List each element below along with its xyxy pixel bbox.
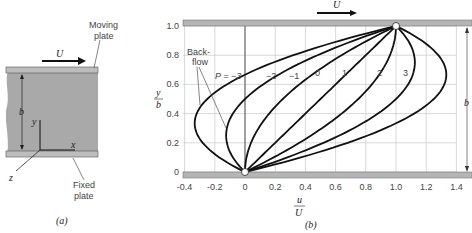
moving-plate — [183, 20, 472, 26]
x-axis-label: x — [70, 139, 76, 150]
diagram: U b y x z Moving plate Fixed plate (a) U — [0, 0, 472, 233]
fixed-plate — [6, 151, 98, 157]
caption-a: (a) — [56, 215, 68, 227]
x-tick: 0 — [242, 182, 247, 192]
fixed-plate-label: Fixed — [73, 180, 95, 190]
caption-b: (b) — [305, 219, 317, 231]
x-tick: 1.0 — [390, 182, 403, 192]
y-tick: 0.6 — [166, 79, 179, 89]
fixed-plate — [183, 172, 472, 178]
y-tick: 0.8 — [166, 50, 179, 60]
gap-label: b — [464, 97, 469, 108]
y-tick: 0.4 — [166, 109, 179, 119]
y-tick: 0 — [174, 167, 179, 177]
fixed-plate-label-2: plate — [74, 191, 94, 201]
moving-plate-label-2: plate — [94, 31, 114, 41]
panel-a: U b y x z Moving plate Fixed plate (a) — [4, 20, 118, 227]
p-label: P = −3 — [215, 71, 241, 81]
z-axis-label: z — [8, 172, 13, 183]
curve-label: 3 — [403, 68, 408, 78]
backflow-label-2: flow — [192, 57, 209, 67]
gap-label: b — [19, 106, 24, 117]
curve-label: 2 — [377, 68, 382, 78]
x-tick: -0.2 — [207, 182, 223, 192]
y-label-num: y — [155, 87, 161, 98]
y-axis-label: y — [31, 116, 37, 127]
y-ticks: 00.20.40.60.81.0 — [166, 21, 179, 177]
x-ticks: -0.4-0.200.20.40.60.81.01.21.4 — [177, 182, 463, 192]
y-tick: 1.0 — [166, 21, 179, 31]
profile-curve — [226, 26, 396, 172]
bottom-node — [242, 169, 249, 176]
curve-label: −2 — [266, 71, 276, 81]
top-node — [393, 23, 400, 30]
x-tick: 0.8 — [360, 182, 373, 192]
velocity-label: U — [56, 48, 64, 59]
x-tick: 0.4 — [299, 182, 312, 192]
moving-plate-label: Moving — [89, 20, 118, 30]
x-label-num: u — [297, 194, 302, 205]
x-tick: 1.2 — [420, 182, 433, 192]
x-tick: 0.6 — [329, 182, 342, 192]
curve-label: −1 — [289, 71, 299, 81]
curve-label: 0 — [315, 68, 320, 78]
panel-b: U b Back- flow P = −3 −2−10123 -0.4-0.20… — [154, 0, 472, 231]
backflow-label: Back- — [187, 47, 210, 57]
x-tick: 0.2 — [269, 182, 282, 192]
velocity-label: U — [333, 0, 341, 10]
x-tick: -0.4 — [177, 182, 193, 192]
curve-label: 1 — [342, 68, 347, 78]
profile-curve — [245, 26, 415, 172]
moving-plate — [6, 67, 98, 73]
x-label-den: U — [295, 207, 303, 218]
profile-curve — [245, 26, 396, 172]
y-tick: 0.2 — [166, 138, 179, 148]
x-tick: 1.4 — [450, 182, 463, 192]
velocity-profiles — [195, 26, 447, 172]
y-label-den: b — [156, 99, 161, 110]
